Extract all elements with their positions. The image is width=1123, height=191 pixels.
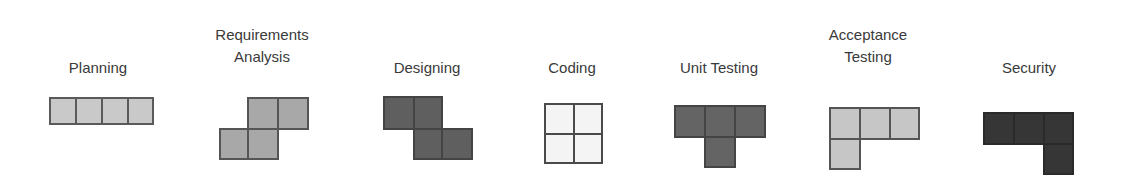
stage-label-security: Security	[1002, 57, 1056, 79]
label-line: Acceptance	[829, 24, 907, 46]
block-cell	[573, 133, 603, 164]
stage-label-coding: Coding	[548, 57, 596, 79]
block-cell	[734, 105, 766, 138]
block-cell	[127, 97, 154, 125]
block-cell	[829, 138, 861, 170]
label-line: Requirements	[215, 24, 308, 46]
block-cell	[49, 97, 77, 125]
block-cell	[829, 107, 861, 140]
block-cell	[573, 103, 603, 135]
block-cell	[413, 128, 443, 160]
stage-label-designing: Designing	[394, 57, 461, 79]
block-cell	[1043, 143, 1074, 175]
block-cell	[413, 96, 443, 130]
block-cell	[247, 128, 279, 160]
block-cell	[219, 128, 249, 160]
block-cell	[101, 97, 129, 125]
block-cell	[983, 112, 1015, 145]
label-line: Coding	[548, 57, 596, 79]
label-line: Security	[1002, 57, 1056, 79]
label-line: Analysis	[215, 46, 308, 68]
label-line: Testing	[829, 46, 907, 68]
block-cell	[441, 128, 473, 160]
block-cell	[277, 97, 309, 130]
block-cell	[544, 133, 575, 164]
block-cell	[1043, 112, 1074, 145]
label-line: Unit Testing	[680, 57, 758, 79]
block-cell	[1013, 112, 1045, 145]
block-cell	[674, 105, 706, 138]
stage-label-requirements: Requirements Analysis	[215, 24, 308, 68]
block-cell	[889, 107, 920, 140]
label-line: Planning	[69, 57, 127, 79]
block-cell	[247, 97, 279, 130]
block-cell	[75, 97, 103, 125]
block-cell	[704, 105, 736, 138]
block-cell	[383, 96, 415, 130]
block-cell	[704, 136, 736, 168]
stage-label-acceptance-testing: Acceptance Testing	[829, 24, 907, 68]
block-cell	[859, 107, 891, 140]
label-line: Designing	[394, 57, 461, 79]
block-cell	[544, 103, 575, 135]
stage-label-planning: Planning	[69, 57, 127, 79]
stage-label-unit-testing: Unit Testing	[680, 57, 758, 79]
